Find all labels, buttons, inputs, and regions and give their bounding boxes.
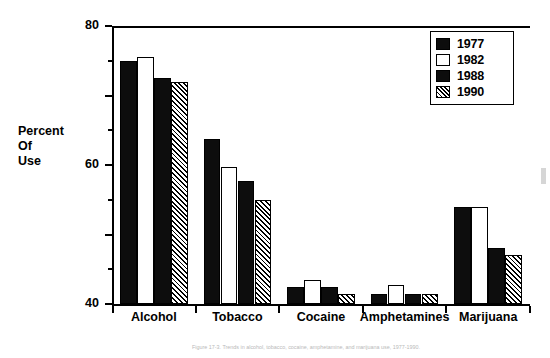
legend-label: 1988 <box>457 69 484 83</box>
x-axis-label-amphetamines: Amphetamines <box>360 310 450 324</box>
y-tick-minor <box>108 199 112 201</box>
bar <box>154 78 171 304</box>
y-axis-title-line-2: Of <box>18 139 104 154</box>
bar-group <box>120 26 188 304</box>
legend-swatch-solid <box>436 38 450 50</box>
y-tick-minor <box>108 60 112 62</box>
legend-label: 1977 <box>457 37 484 51</box>
x-axis-label-cocaine: Cocaine <box>297 310 346 324</box>
x-tick <box>278 306 280 313</box>
x-axis-label-tobacco: Tobacco <box>212 310 262 324</box>
bar <box>422 294 439 304</box>
y-tick-major: 20 <box>105 234 112 236</box>
x-axis-label-marijuana: Marijuana <box>459 310 517 324</box>
bar <box>120 61 137 304</box>
bar <box>405 294 422 304</box>
legend-item-1988: 1988 <box>436 68 508 84</box>
legend-label: 1982 <box>457 53 484 67</box>
legend-item-1977: 1977 <box>436 36 508 52</box>
bar <box>137 57 154 304</box>
x-axis-label-alcohol: Alcohol <box>131 310 177 324</box>
x-tick <box>529 306 531 313</box>
bar-chart-figure: Percent Of Use 020406080 AlcoholTobaccoC… <box>0 0 550 358</box>
bar <box>371 294 388 304</box>
y-axis-line <box>112 26 114 306</box>
y-tick-minor <box>108 129 112 131</box>
legend-swatch-hatch <box>436 86 450 98</box>
bar <box>488 248 505 304</box>
y-tick-major: 0 <box>105 303 112 305</box>
y-tick-major: 60 <box>105 95 112 97</box>
y-tick-major: 80 <box>105 25 112 27</box>
x-axis-line <box>112 304 530 306</box>
bar-group <box>371 26 439 304</box>
figure-caption: Figure 17-3. Trends in alcohol, tobacco,… <box>96 344 516 351</box>
bar <box>454 207 471 304</box>
bar <box>471 207 488 304</box>
legend-item-1982: 1982 <box>436 52 508 68</box>
legend-label: 1990 <box>457 85 484 99</box>
bar <box>304 280 321 304</box>
bar <box>204 139 221 304</box>
scan-artifact <box>541 168 546 184</box>
bar <box>338 294 355 304</box>
bar <box>255 200 272 304</box>
bar <box>388 285 405 304</box>
bar <box>238 181 255 304</box>
bar <box>505 255 522 304</box>
y-tick-minor <box>108 268 112 270</box>
legend-item-1990: 1990 <box>436 84 508 100</box>
y-tick-label: 60 <box>85 157 99 171</box>
bar <box>287 287 304 304</box>
legend-swatch-solid <box>436 70 450 82</box>
bar <box>321 287 338 304</box>
x-tick <box>112 306 114 313</box>
bar-group <box>204 26 272 304</box>
bar-group <box>287 26 355 304</box>
x-tick <box>195 306 197 313</box>
y-tick-major: 40 <box>105 164 112 166</box>
y-tick-label: 40 <box>85 296 99 310</box>
y-axis-title-line-1: Percent <box>18 124 104 139</box>
bar <box>221 167 238 304</box>
bar <box>171 82 188 304</box>
legend-swatch-open <box>436 54 450 66</box>
y-tick-label: 80 <box>85 18 99 32</box>
legend: 1977198219881990 <box>430 31 514 105</box>
